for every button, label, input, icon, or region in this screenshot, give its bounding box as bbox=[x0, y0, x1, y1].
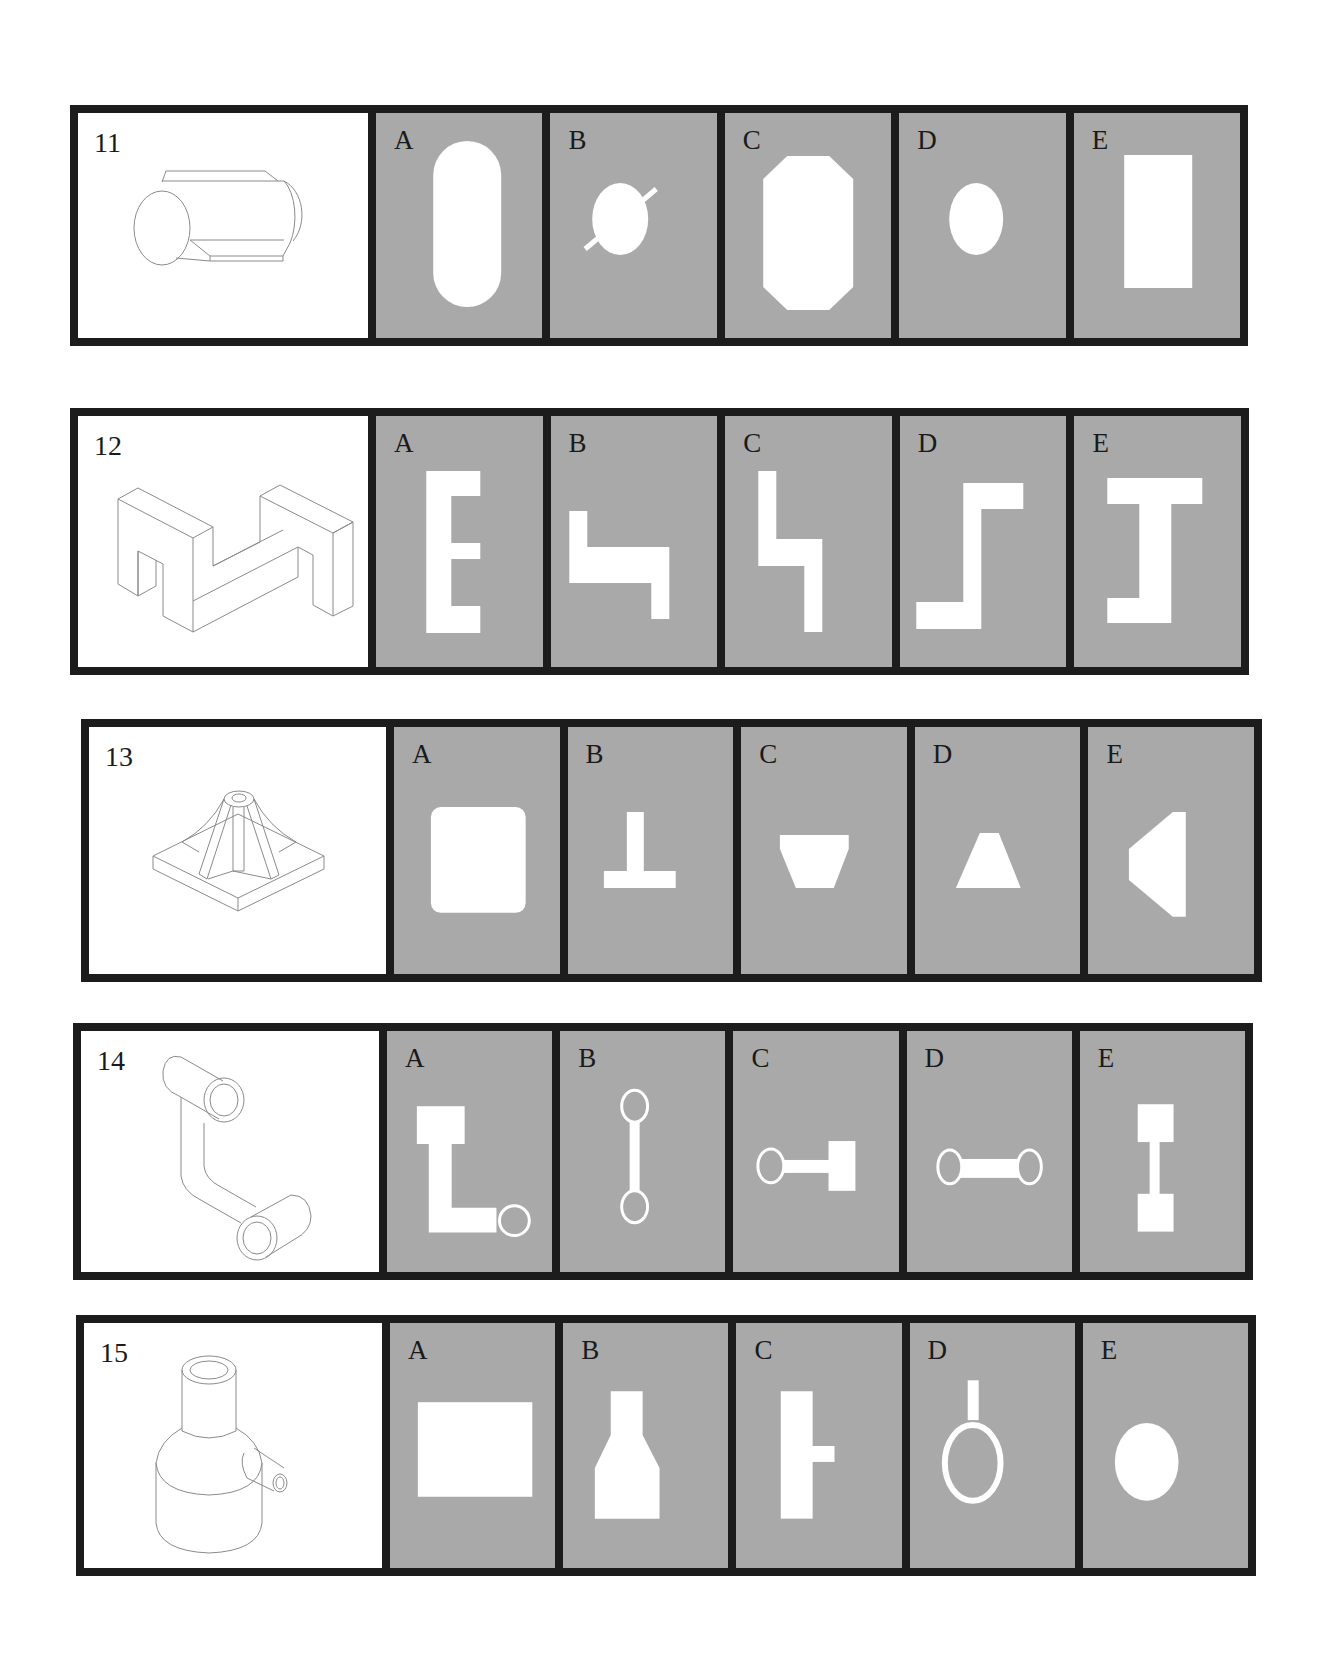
option-cell-a[interactable]: A bbox=[376, 416, 543, 667]
option-cell-a[interactable]: A bbox=[376, 113, 542, 338]
linked-tubes-drawing-icon bbox=[81, 1031, 379, 1272]
question-cell: 15 bbox=[84, 1323, 382, 1568]
question-row-14: 14 A B C D E bbox=[73, 1023, 1253, 1280]
question-cell: 13 bbox=[89, 727, 386, 974]
option-cell-b[interactable]: B bbox=[551, 416, 718, 667]
circle-icon bbox=[899, 113, 1065, 338]
option-cell-d[interactable]: D bbox=[910, 1323, 1075, 1568]
tall-rectangle-icon bbox=[1074, 113, 1240, 338]
stepped-cylinder-drawing-icon bbox=[84, 1323, 382, 1568]
trapezoid-icon bbox=[915, 727, 1081, 974]
option-cell-c[interactable]: C bbox=[725, 113, 891, 338]
vertical-dumbbell-squares-icon bbox=[1080, 1031, 1245, 1272]
option-cell-e[interactable]: E bbox=[1083, 1323, 1248, 1568]
ring-bar-square-icon bbox=[733, 1031, 898, 1272]
left-trapezoid-icon bbox=[1088, 727, 1254, 974]
pyramid-base-drawing-icon bbox=[89, 727, 386, 974]
option-cell-c[interactable]: C bbox=[741, 727, 907, 974]
question-row-11: 11 A B C D E bbox=[70, 105, 1248, 346]
option-cell-c[interactable]: C bbox=[733, 1031, 898, 1272]
bottle-profile-icon bbox=[563, 1323, 728, 1568]
horizontal-dumbbell-rings-icon bbox=[907, 1031, 1072, 1272]
vertical-dumbbell-rings-icon bbox=[560, 1031, 725, 1272]
option-cell-e[interactable]: E bbox=[1080, 1031, 1245, 1272]
option-cell-c[interactable]: C bbox=[736, 1323, 901, 1568]
option-cell-a[interactable]: A bbox=[390, 1323, 555, 1568]
option-cell-e[interactable]: E bbox=[1074, 416, 1241, 667]
z-step-icon bbox=[900, 416, 1067, 667]
option-cell-a[interactable]: A bbox=[387, 1031, 552, 1272]
octagon-icon bbox=[725, 113, 891, 338]
rounded-square-icon bbox=[394, 727, 560, 974]
option-cell-d[interactable]: D bbox=[915, 727, 1081, 974]
ring-with-stem-icon bbox=[910, 1323, 1075, 1568]
circle-with-line-icon bbox=[550, 113, 716, 338]
question-cell: 12 bbox=[78, 416, 368, 667]
cylinder-drawing-icon bbox=[78, 113, 368, 338]
question-row-13: 13 A B C D E bbox=[81, 719, 1262, 982]
option-cell-d[interactable]: D bbox=[899, 113, 1065, 338]
vertical-stadium-icon bbox=[376, 113, 542, 338]
z-block-drawing-icon bbox=[78, 416, 368, 667]
stepped-l-horizontal-icon bbox=[551, 416, 718, 667]
question-cell: 14 bbox=[81, 1031, 379, 1272]
wide-rectangle-icon bbox=[390, 1323, 555, 1568]
e-shape-icon bbox=[376, 416, 543, 667]
stepped-l-vertical-icon bbox=[725, 416, 892, 667]
option-cell-e[interactable]: E bbox=[1088, 727, 1254, 974]
inverted-trapezoid-icon bbox=[741, 727, 907, 974]
option-cell-c[interactable]: C bbox=[725, 416, 892, 667]
option-cell-b[interactable]: B bbox=[560, 1031, 725, 1272]
option-cell-b[interactable]: B bbox=[568, 727, 734, 974]
option-cell-a[interactable]: A bbox=[394, 727, 560, 974]
option-cell-e[interactable]: E bbox=[1074, 113, 1240, 338]
oval-icon bbox=[1083, 1323, 1248, 1568]
rectangle-with-tab-icon bbox=[736, 1323, 901, 1568]
bracket-i-icon bbox=[1074, 416, 1241, 667]
question-cell: 11 bbox=[78, 113, 368, 338]
l-with-ring-icon bbox=[387, 1031, 552, 1272]
question-row-15: 15 A B C D E bbox=[76, 1315, 1256, 1576]
option-cell-d[interactable]: D bbox=[900, 416, 1067, 667]
option-cell-b[interactable]: B bbox=[550, 113, 716, 338]
question-row-12: 12 A B C D E bbox=[70, 408, 1249, 675]
inverted-t-icon bbox=[568, 727, 734, 974]
option-cell-b[interactable]: B bbox=[563, 1323, 728, 1568]
option-cell-d[interactable]: D bbox=[907, 1031, 1072, 1272]
